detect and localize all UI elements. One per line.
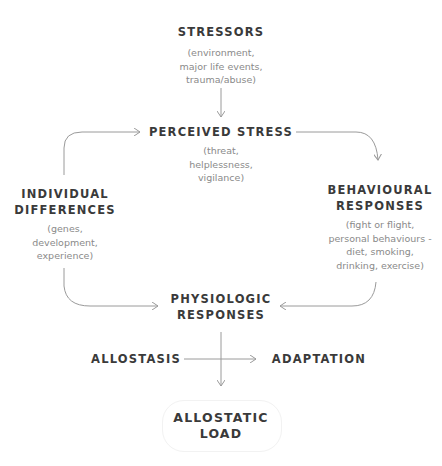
perceived-stress-title: PERCEIVED STRESS bbox=[121, 124, 321, 140]
stressors-detail: (environment, major life events, trauma/… bbox=[121, 46, 321, 87]
arrow-individual-to-physiologic bbox=[64, 268, 158, 306]
allostasis-title: ALLOSTASIS bbox=[86, 351, 186, 367]
node-physiologic-responses: PHYSIOLOGIC RESPONSES bbox=[151, 291, 291, 323]
node-allostasis: ALLOSTASIS bbox=[86, 351, 186, 367]
arrow-behavioural-to-physiologic bbox=[280, 282, 376, 306]
adaptation-title: ADAPTATION bbox=[264, 351, 374, 367]
behavioural-responses-detail: (fight or flight, personal behaviours - … bbox=[318, 218, 442, 272]
node-individual-differences: INDIVIDUAL DIFFERENCES (genes, developme… bbox=[4, 186, 126, 263]
allostatic-load-title-2: LOAD bbox=[151, 426, 291, 442]
individual-differences-detail: (genes, development, experience) bbox=[4, 222, 126, 263]
node-stressors: STRESSORS (environment, major life event… bbox=[121, 24, 321, 87]
node-perceived-stress: PERCEIVED STRESS (threat, helplessness, … bbox=[121, 124, 321, 185]
physiologic-responses-title-1: PHYSIOLOGIC bbox=[151, 291, 291, 307]
node-behavioural-responses: BEHAVIOURAL RESPONSES (fight or flight, … bbox=[318, 182, 442, 272]
physiologic-responses-title-2: RESPONSES bbox=[151, 307, 291, 323]
node-adaptation: ADAPTATION bbox=[264, 351, 374, 367]
node-allostatic-load: ALLOSTATIC LOAD bbox=[151, 410, 291, 442]
allostatic-load-title-1: ALLOSTATIC bbox=[151, 410, 291, 426]
individual-differences-title-2: DIFFERENCES bbox=[4, 202, 126, 218]
perceived-stress-detail: (threat, helplessness, vigilance) bbox=[121, 144, 321, 185]
behavioural-responses-title-1: BEHAVIOURAL bbox=[318, 182, 442, 198]
behavioural-responses-title-2: RESPONSES bbox=[318, 198, 442, 214]
individual-differences-title-1: INDIVIDUAL bbox=[4, 186, 126, 202]
stressors-title: STRESSORS bbox=[121, 24, 321, 40]
